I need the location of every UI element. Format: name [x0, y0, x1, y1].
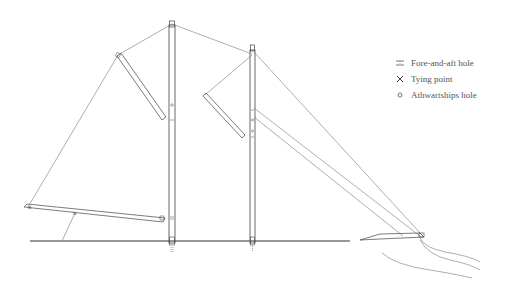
bowsprit: [360, 233, 424, 240]
right-gaff: [203, 93, 245, 138]
rigging-diagram: x x: [0, 0, 507, 295]
main-mast: [169, 21, 175, 252]
legend-item-tying-point: Tying point: [393, 71, 477, 87]
boom: x x: [24, 203, 165, 222]
legend-label: Tying point: [411, 74, 453, 84]
legend-item-fore-and-aft-hole: Fore-and-aft hole: [393, 55, 477, 71]
fore-mast: [250, 45, 255, 252]
legend-item-athwartships-hole: Athwartships hole: [393, 87, 477, 103]
wave-lines: [382, 238, 480, 278]
athwartships-hole-icon: [393, 91, 407, 99]
svg-text:x: x: [73, 209, 77, 216]
boom-tie-line: [62, 213, 75, 241]
rigging-lines: [28, 24, 422, 236]
fore-and-aft-hole-icon: [393, 59, 407, 67]
legend-label: Fore-and-aft hole: [411, 58, 474, 68]
left-gaff: [115, 52, 166, 120]
tying-point-icon: [393, 75, 407, 83]
legend: Fore-and-aft hole Tying point Athwartshi…: [393, 55, 477, 103]
legend-label: Athwartships hole: [411, 90, 477, 100]
